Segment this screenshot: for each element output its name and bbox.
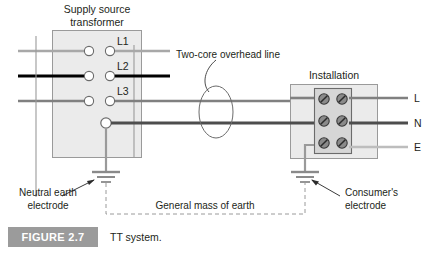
- figure-caption-text: TT system.: [110, 231, 162, 243]
- transformer-terminal-l2: [105, 71, 114, 80]
- transformer-terminal-neutral: [101, 118, 111, 128]
- terminal-label-n: N: [414, 117, 422, 129]
- terminal-screw: [337, 94, 347, 104]
- two-core-marker-ellipse: [199, 86, 233, 138]
- terminal-label-e: E: [414, 141, 421, 153]
- terminal-screw: [319, 94, 329, 104]
- figure-caption-number: FIGURE 2.7: [22, 231, 85, 243]
- figure-tt-system: Supply source transformer L1 L2 L3 Two-c…: [0, 0, 442, 257]
- transformer-terminal-l2-primary: [84, 71, 93, 80]
- neutral-earth-electrode-symbol: [92, 172, 120, 182]
- two-core-overhead-line-label: Two-core overhead line: [176, 49, 280, 60]
- neutral-earth-electrode-label-line2: electrode: [27, 200, 69, 211]
- phase-label-l3: L3: [117, 85, 129, 97]
- supply-source-transformer-label-line1: Supply source: [64, 3, 131, 15]
- terminal-screw: [319, 138, 329, 148]
- transformer-terminal-l3-primary: [84, 96, 93, 105]
- general-mass-of-earth-label: General mass of earth: [156, 200, 255, 211]
- terminal-screw: [337, 116, 347, 126]
- terminal-label-l: L: [414, 92, 420, 104]
- consumer-electrode-label-line1: Consumer's: [345, 187, 398, 198]
- supply-source-transformer-label-line2: transformer: [70, 16, 124, 28]
- tt-system-diagram: Supply source transformer L1 L2 L3 Two-c…: [0, 0, 442, 257]
- transformer-terminal-l1: [105, 46, 114, 55]
- consumer-electrode-arrow: [311, 180, 319, 186]
- installation-label: Installation: [309, 69, 359, 81]
- phase-label-l1: L1: [117, 35, 129, 47]
- terminal-screw: [319, 116, 329, 126]
- transformer-terminal-l3: [105, 96, 114, 105]
- neutral-electrode-arrow: [87, 180, 95, 186]
- terminal-screw: [337, 138, 347, 148]
- phase-label-l2: L2: [117, 60, 129, 72]
- neutral-earth-electrode-label-line1: Neutral earth: [19, 187, 77, 198]
- consumer-electrode-label-line2: electrode: [345, 200, 387, 211]
- transformer-terminal-l1-primary: [84, 46, 93, 55]
